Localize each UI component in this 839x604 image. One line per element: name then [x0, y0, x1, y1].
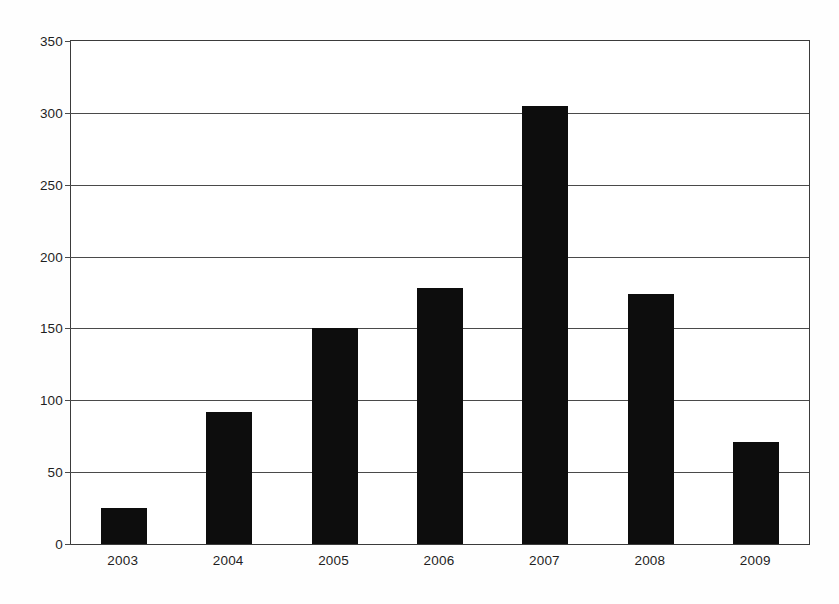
- y-axis-tick-label: 250: [1, 177, 63, 192]
- y-axis-tick-label: 350: [1, 34, 63, 49]
- y-axis-tick-mark: [65, 113, 71, 114]
- y-axis-tick-mark: [65, 544, 71, 545]
- y-axis-tick-mark: [65, 185, 71, 186]
- y-axis-tick-mark: [65, 400, 71, 401]
- y-axis-tick-mark: [65, 472, 71, 473]
- x-axis-tick-label: 2009: [710, 553, 800, 568]
- y-axis-tick-label: 300: [1, 105, 63, 120]
- y-axis: 050100150200250300350: [71, 41, 809, 544]
- y-axis-tick-label: 50: [1, 465, 63, 480]
- x-axis-tick-label: 2006: [394, 553, 484, 568]
- x-axis-tick-label: 2003: [78, 553, 168, 568]
- y-axis-tick-mark: [65, 41, 71, 42]
- x-axis-tick-label: 2008: [605, 553, 695, 568]
- x-axis-tick-label: 2004: [183, 553, 273, 568]
- x-axis: 2003200420052006200720082009: [70, 553, 810, 583]
- x-axis-tick-label: 2007: [499, 553, 589, 568]
- bar-chart-figure: 050100150200250300350 200320042005200620…: [0, 0, 839, 604]
- x-axis-tick-label: 2005: [289, 553, 379, 568]
- y-axis-tick-mark: [65, 257, 71, 258]
- y-axis-tick-label: 0: [1, 537, 63, 552]
- y-axis-tick-mark: [65, 328, 71, 329]
- plot-area: 050100150200250300350: [70, 40, 810, 545]
- y-axis-tick-label: 100: [1, 393, 63, 408]
- y-axis-tick-label: 200: [1, 249, 63, 264]
- y-axis-tick-label: 150: [1, 321, 63, 336]
